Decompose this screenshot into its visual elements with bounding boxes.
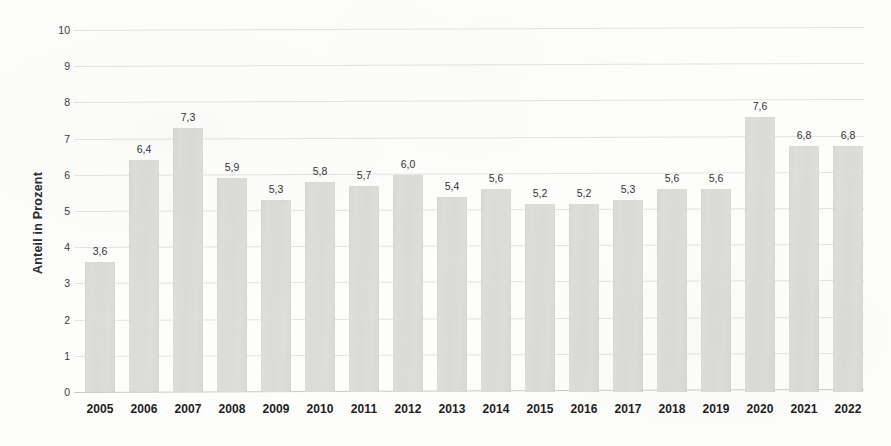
bar[interactable] [217, 178, 247, 392]
bar[interactable] [789, 146, 819, 392]
y-axis-title: Anteil in Prozent [20, 0, 56, 446]
bar-value-label: 5,8 [298, 165, 342, 177]
x-tick-label: 2018 [650, 402, 694, 416]
x-tick-label: 2016 [562, 402, 606, 416]
x-tick-label: 2007 [166, 402, 210, 416]
bar[interactable] [261, 200, 291, 392]
bar[interactable] [525, 204, 555, 392]
bar-value-label: 5,3 [606, 183, 650, 195]
x-tick-label: 2010 [298, 402, 342, 416]
bar-value-label: 5,7 [342, 169, 386, 181]
bar-value-label: 6,0 [386, 158, 430, 170]
x-tick-label: 2012 [386, 402, 430, 416]
bar[interactable] [657, 189, 687, 392]
bar-value-label: 6,8 [782, 129, 826, 141]
bar-value-label: 5,2 [518, 187, 562, 199]
bar-value-label: 6,8 [826, 129, 870, 141]
bar[interactable] [745, 117, 775, 392]
bar-value-label: 7,3 [166, 111, 210, 123]
x-tick-label: 2019 [694, 402, 738, 416]
bar-value-label: 5,6 [650, 172, 694, 184]
bar[interactable] [85, 262, 115, 392]
bar[interactable] [613, 200, 643, 392]
bar-value-label: 7,6 [738, 100, 782, 112]
x-tick-label: 2015 [518, 402, 562, 416]
bar-value-label: 3,6 [78, 245, 122, 257]
x-tick-label: 2021 [782, 402, 826, 416]
bar[interactable] [349, 186, 379, 392]
x-tick-label: 2009 [254, 402, 298, 416]
bar-value-label: 5,2 [562, 187, 606, 199]
x-tick-label: 2011 [342, 402, 386, 416]
gridline [74, 27, 864, 31]
bar-value-label: 5,6 [694, 172, 738, 184]
bar[interactable] [833, 146, 863, 392]
bar-chart: Anteil in Prozent 0123456789103,620056,4… [0, 0, 891, 446]
x-tick-label: 2017 [606, 402, 650, 416]
bar[interactable] [305, 182, 335, 392]
bar[interactable] [569, 204, 599, 392]
bar[interactable] [173, 128, 203, 392]
bar[interactable] [481, 189, 511, 392]
x-tick-label: 2022 [826, 402, 870, 416]
x-tick-label: 2005 [78, 402, 122, 416]
x-tick-label: 2013 [430, 402, 474, 416]
bar[interactable] [437, 197, 467, 392]
x-tick-label: 2008 [210, 402, 254, 416]
bar-value-label: 5,6 [474, 172, 518, 184]
bar-value-label: 5,4 [430, 180, 474, 192]
bar-value-label: 5,3 [254, 183, 298, 195]
bar[interactable] [129, 160, 159, 392]
x-tick-label: 2006 [122, 402, 166, 416]
bar-value-label: 5,9 [210, 161, 254, 173]
bar[interactable] [393, 175, 423, 392]
gridline [74, 63, 864, 67]
bar[interactable] [701, 189, 731, 392]
plot-area: 0123456789103,620056,420067,320075,92008… [0, 0, 891, 446]
bar-value-label: 6,4 [122, 143, 166, 155]
x-tick-label: 2014 [474, 402, 518, 416]
x-tick-label: 2020 [738, 402, 782, 416]
